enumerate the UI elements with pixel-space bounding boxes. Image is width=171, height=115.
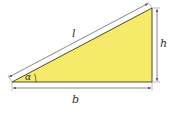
hypotenuse-extension-right xyxy=(148,2,152,8)
right-triangle-diagram: l h b α xyxy=(0,0,171,115)
angle-label: α xyxy=(25,72,31,82)
base-label: b xyxy=(72,93,79,106)
triangle-shape xyxy=(12,8,152,82)
hypotenuse-label: l xyxy=(72,27,76,40)
height-label: h xyxy=(160,37,167,50)
